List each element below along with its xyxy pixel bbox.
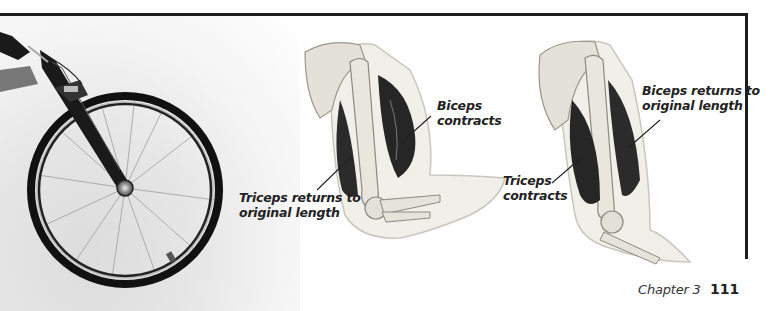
elbow-joint — [601, 211, 623, 233]
label-line: contracts — [503, 188, 568, 203]
label-triceps-returns: Triceps returns to original length — [239, 190, 361, 220]
label-line: original length — [642, 98, 760, 113]
label-line: original length — [239, 205, 361, 220]
label-line: Triceps returns to — [239, 190, 361, 205]
arm-illustration-triceps-contracts — [0, 0, 776, 311]
page-number: 111 — [710, 281, 739, 297]
label-line: contracts — [437, 113, 502, 128]
label-biceps-contracts: Biceps contracts — [437, 98, 502, 128]
chapter-label: Chapter 3 — [638, 282, 701, 297]
label-line: Biceps returns to — [642, 83, 760, 98]
label-triceps-contracts: Triceps contracts — [503, 173, 568, 203]
textbook-page: Biceps contracts Triceps returns to orig… — [0, 0, 776, 311]
label-line: Biceps — [437, 98, 502, 113]
label-line: Triceps — [503, 173, 568, 188]
label-biceps-returns: Biceps returns to original length — [642, 83, 760, 113]
